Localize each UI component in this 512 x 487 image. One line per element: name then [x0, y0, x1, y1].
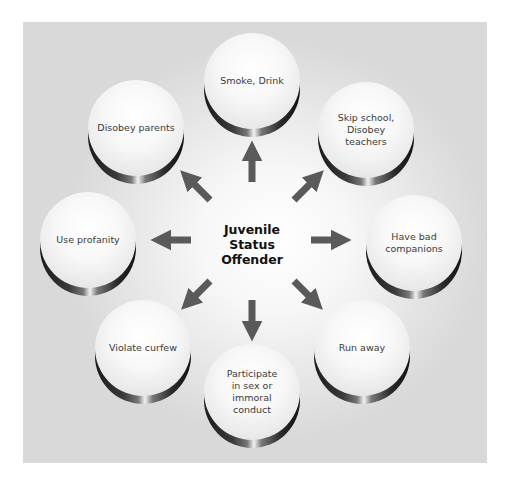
node-label: Participate in sex or immoral conduct [219, 368, 286, 416]
arrow-up-right-icon [294, 184, 310, 200]
arrow-up-left-icon [194, 184, 210, 200]
node-run-away: Run away [314, 300, 410, 404]
node-disobey-parents: Disobey parents [88, 80, 184, 184]
node-smoke-drink: Smoke, Drink [204, 33, 300, 137]
center-label: Juvenile Status Offender [202, 222, 302, 267]
node-skip-school: Skip school, Disobey teachers [318, 82, 414, 186]
node-label: Use profanity [48, 234, 127, 246]
node-label: Disobey parents [89, 122, 182, 134]
sphere: Skip school, Disobey teachers [318, 82, 414, 178]
arrow-down-right-icon [294, 281, 309, 296]
arrow-down-left-icon [195, 281, 210, 296]
node-label: Have bad companions [377, 231, 451, 255]
sphere: Have bad companions [366, 195, 462, 291]
node-label: Run away [331, 342, 393, 354]
sphere: Use profanity [40, 192, 136, 288]
node-participate-sex: Participate in sex or immoral conduct [204, 344, 300, 448]
node-use-profanity: Use profanity [40, 192, 136, 296]
sphere: Run away [314, 300, 410, 396]
sphere: Participate in sex or immoral conduct [204, 344, 300, 440]
node-violate-curfew: Violate curfew [95, 300, 191, 404]
sphere: Disobey parents [88, 80, 184, 176]
node-label: Violate curfew [101, 342, 185, 354]
node-label: Skip school, Disobey teachers [318, 112, 414, 148]
node-label: Smoke, Drink [212, 75, 292, 87]
sphere: Smoke, Drink [204, 33, 300, 129]
sphere: Violate curfew [95, 300, 191, 396]
node-bad-companions: Have bad companions [366, 195, 462, 299]
